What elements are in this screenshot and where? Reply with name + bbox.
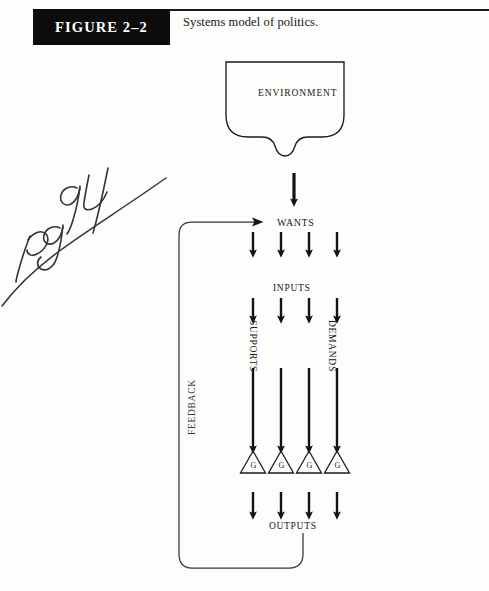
node-label-wants: WANTS (277, 217, 314, 228)
gate-label-3: G (307, 461, 313, 470)
inputs-to-channel-arrows (253, 298, 337, 320)
node-label-feedback: FEEDBACK (187, 379, 197, 435)
channel-to-gate-arrows (253, 368, 337, 450)
environment-shape (226, 62, 344, 156)
node-label-supports: SUPPORTS (248, 320, 258, 372)
gate-to-outputs-arrows (253, 492, 337, 516)
feedback-loop-path (179, 222, 303, 568)
systems-model-diagram (0, 0, 489, 591)
figure-page: FIGURE 2–2 Systems model of politics. (0, 0, 489, 591)
diagram-svg (0, 0, 489, 591)
gate-triangles (241, 451, 350, 473)
gate-label-1: G (251, 461, 257, 470)
node-label-demands: DEMANDS (327, 320, 337, 372)
node-label-outputs: OUTPUTS (269, 521, 317, 531)
gate-label-4: G (335, 461, 341, 470)
gate-label-2: G (279, 461, 285, 470)
node-label-environment: ENVIRONMENT (258, 88, 338, 98)
node-label-inputs: INPUTS (273, 283, 310, 293)
wants-to-inputs-arrows (253, 232, 337, 254)
